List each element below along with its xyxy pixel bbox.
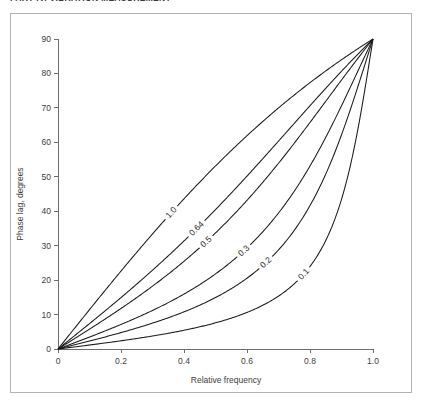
y-tick-label: 30 bbox=[42, 241, 52, 251]
curves-group bbox=[58, 39, 373, 349]
x-tick-label: 0.8 bbox=[304, 356, 316, 366]
y-tick-label: 10 bbox=[42, 310, 52, 320]
figure-frame: 010203040506070809000.20.40.60.81.0 0.10… bbox=[10, 13, 412, 393]
curve-zeta-0.2 bbox=[58, 39, 373, 349]
y-tick-label: 90 bbox=[42, 34, 52, 44]
y-tick-label: 20 bbox=[42, 275, 52, 285]
axes-group: 010203040506070809000.20.40.60.81.0 bbox=[42, 34, 380, 366]
curve-zeta-0.1 bbox=[58, 39, 373, 349]
curve-zeta-0.3 bbox=[58, 39, 373, 349]
curve-zeta-0.5 bbox=[58, 39, 373, 349]
x-tick-label: 0.2 bbox=[115, 356, 127, 366]
y-tick-label: 80 bbox=[42, 68, 52, 78]
y-axis-title: Phase lag, degrees bbox=[15, 167, 25, 240]
curve-labels-group: 0.10.20.30.50.641.0 bbox=[161, 202, 313, 284]
x-tick-label: 0.4 bbox=[178, 356, 190, 366]
x-tick-label: 0.6 bbox=[241, 356, 253, 366]
y-tick-label: 60 bbox=[42, 137, 52, 147]
x-tick-label: 1.0 bbox=[367, 356, 379, 366]
phase-lag-chart: 010203040506070809000.20.40.60.81.0 0.10… bbox=[11, 14, 411, 392]
x-axis-title: Relative frequency bbox=[191, 375, 262, 385]
y-tick-label: 0 bbox=[46, 344, 51, 354]
page-running-header: PART IV. VIBRATION MEASUREMENT bbox=[10, 0, 310, 3]
y-tick-label: 50 bbox=[42, 172, 52, 182]
curve-zeta-0.64 bbox=[58, 39, 373, 349]
y-tick-label: 70 bbox=[42, 103, 52, 113]
y-tick-label: 40 bbox=[42, 206, 52, 216]
x-tick-label: 0 bbox=[56, 356, 61, 366]
curve-zeta-1.0 bbox=[58, 39, 373, 349]
